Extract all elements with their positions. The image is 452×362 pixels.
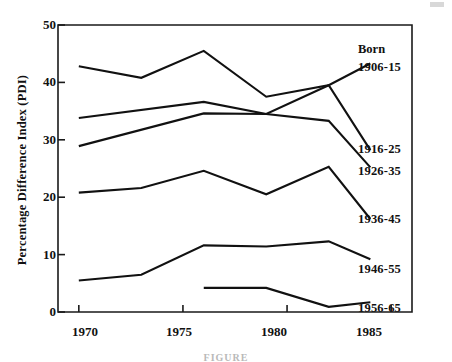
series-line-1926-35 bbox=[79, 63, 371, 146]
series-layer bbox=[79, 51, 371, 307]
line-chart-plot bbox=[0, 0, 452, 362]
figure-caption: FIGURE bbox=[0, 352, 452, 362]
series-line-1956-65 bbox=[204, 288, 371, 307]
axis-layer bbox=[58, 25, 412, 312]
series-line-1946-55 bbox=[79, 241, 371, 280]
axis-frame bbox=[58, 25, 412, 312]
y-tick-marks bbox=[58, 25, 65, 312]
series-line-1936-45 bbox=[79, 167, 371, 219]
corner-artifact bbox=[430, 2, 444, 7]
